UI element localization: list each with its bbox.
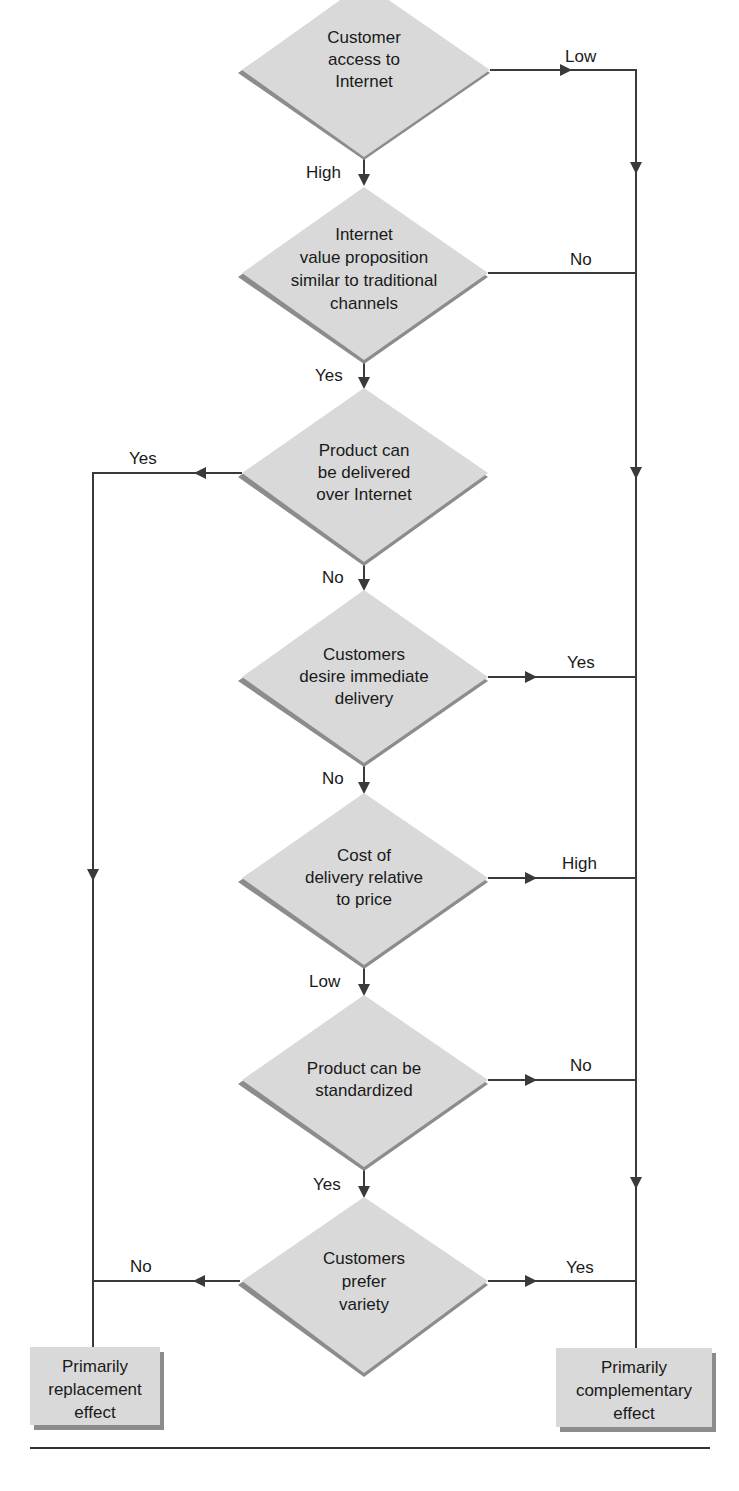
edge-label-d4-yes: Yes xyxy=(567,653,595,672)
edge-label-d2-yes: Yes xyxy=(315,366,343,385)
flowchart: Customeraccess toInternet Internetvalue … xyxy=(0,0,739,1491)
edge-label-d7-yes: Yes xyxy=(566,1258,594,1277)
edge-label-d4-no: No xyxy=(322,769,344,788)
svg-text:Product canbe deliveredover In: Product canbe deliveredover Internet xyxy=(316,441,412,504)
svg-text:Customeraccess toInternet: Customeraccess toInternet xyxy=(327,28,401,91)
edge-label-d6-no: No xyxy=(570,1056,592,1075)
edge-label-d7-no: No xyxy=(130,1257,152,1276)
node-line: Customer xyxy=(327,28,401,47)
left-collector-line xyxy=(87,467,242,1347)
right-collector-line xyxy=(490,64,642,1348)
edge-label-d5-high: High xyxy=(562,854,597,873)
edge-label-d3-no: No xyxy=(322,568,344,587)
decision-cost-of-delivery: Cost ofdelivery relativeto price xyxy=(238,793,488,969)
decision-immediate-delivery: Customersdesire immediatedelivery xyxy=(238,590,488,767)
edge-label-d5-low: Low xyxy=(309,972,341,991)
decision-standardized: Product can bestandardized xyxy=(238,995,488,1171)
edge-label-d6-yes: Yes xyxy=(313,1175,341,1194)
decision-customer-access: Customeraccess toInternet xyxy=(238,0,490,160)
decision-value-proposition: Internetvalue propositionsimilar to trad… xyxy=(238,187,488,364)
decision-prefer-variety: Customersprefervariety xyxy=(238,1197,488,1377)
edge-label-d3-yes: Yes xyxy=(129,449,157,468)
edge-label-d1-low: Low xyxy=(565,47,597,66)
edge-label-d1-high: High xyxy=(306,163,341,182)
decision-delivered-over-internet: Product canbe deliveredover Internet xyxy=(238,388,488,566)
edge-label-d2-no: No xyxy=(570,250,592,269)
outcome-replacement-effect: Primarilyreplacementeffect xyxy=(30,1347,164,1430)
outcome-complementary-effect: Primarilycomplementaryeffect xyxy=(556,1348,716,1432)
